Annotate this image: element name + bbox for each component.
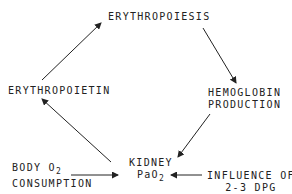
node-kidney-pao2: KIDNEY PaO2 <box>129 157 173 185</box>
influence-line2: 2-3 DPG <box>207 182 292 194</box>
node-erythropoiesis: ERYTHROPOIESIS <box>108 11 211 23</box>
arrow-hemoglobin-to-kidney <box>178 114 210 157</box>
arrow-kidney-to-erythropoietin <box>42 99 111 162</box>
node-body-o2-consumption: BODY O2 CONSUMPTION <box>12 162 93 190</box>
arrow-erythropoietin-to-erythropoiesis <box>42 23 101 80</box>
kidney-line2: PaO2 <box>129 169 173 185</box>
node-erythropoietin: ERYTHROPOIETIN <box>8 85 111 97</box>
node-influence-2-3-dpg: INFLUENCE OF 2-3 DPG <box>207 170 292 194</box>
body-line2: CONSUMPTION <box>12 178 93 190</box>
pao-subscript: 2 <box>159 174 165 183</box>
arrow-erythropoiesis-to-hemoglobin <box>203 28 236 83</box>
hemoglobin-line1: HEMOGLOBIN <box>208 87 281 99</box>
node-hemoglobin-production: HEMOGLOBIN PRODUCTION <box>208 87 281 111</box>
body-o-text: BODY O <box>12 162 56 173</box>
body-o-subscript: 2 <box>56 167 62 176</box>
pao-text: PaO <box>137 169 159 180</box>
body-line1: BODY O2 <box>12 162 93 178</box>
influence-line1: INFLUENCE OF <box>207 170 292 182</box>
kidney-line1: KIDNEY <box>129 157 173 169</box>
hemoglobin-line2: PRODUCTION <box>208 99 281 111</box>
